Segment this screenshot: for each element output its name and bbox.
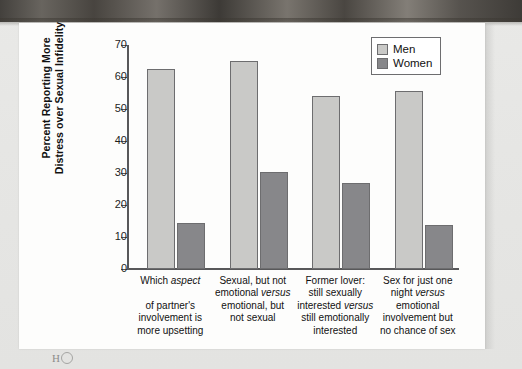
y-tick-label-wrap: 0: [85, 269, 127, 270]
y-axis-title-line1: Percent Reporting More: [40, 37, 52, 158]
bar-men-group2: [230, 61, 258, 269]
bar-women-group3: [342, 183, 370, 269]
bar-women-group1: [177, 223, 205, 269]
bar-chart: 706050403020100 Percent Reporting More D…: [19, 23, 485, 349]
bar-men-group4: [395, 91, 423, 269]
legend-swatch-women: [377, 58, 388, 69]
y-tick-label: 20: [99, 199, 127, 210]
legend-label-men: Men: [393, 43, 415, 55]
y-tick-label: 60: [99, 71, 127, 82]
y-tick-label-wrap: 70: [85, 45, 127, 46]
legend-swatch-men: [377, 44, 388, 55]
figure-panel: 706050403020100 Percent Reporting More D…: [19, 23, 485, 349]
artifact-letter: H: [52, 352, 60, 364]
y-axis-title: Percent Reporting More Distress over Sex…: [40, 10, 66, 186]
bar-men-group1: [147, 69, 175, 269]
y-tick-label-wrap: 10: [85, 237, 127, 238]
bar-women-group4: [425, 225, 453, 269]
y-tick-label: 0: [99, 263, 127, 274]
page-bottom-artifact: H: [52, 352, 73, 364]
chart-legend: MenWomen: [371, 37, 441, 75]
legend-label-women: Women: [393, 57, 432, 69]
y-tick-label: 40: [99, 135, 127, 146]
x-category-label-4: Sex for just onenight versusemotionalinv…: [377, 275, 460, 337]
screenshot-root: 706050403020100 Percent Reporting More D…: [0, 0, 522, 369]
y-tick-label: 30: [99, 167, 127, 178]
legend-item-women: Women: [377, 56, 432, 70]
y-tick-label: 50: [99, 103, 127, 114]
bar-men-group3: [312, 96, 340, 269]
x-category-label-3: Former lover:still sexuallyinterested ve…: [294, 275, 377, 337]
legend-item-men: Men: [377, 42, 432, 56]
y-axis-title-line2: Distress over Sexual Infidelity: [53, 22, 65, 175]
panel-shadow: [485, 23, 495, 349]
y-tick-label: 70: [99, 39, 127, 50]
y-tick-label-wrap: 40: [85, 141, 127, 142]
x-axis-category-labels: Which aspectof partner'sinvolvement ismo…: [129, 275, 461, 347]
artifact-circle-icon: [61, 352, 73, 364]
x-category-label-2: Sexual, but notemotional versusemotional…: [212, 275, 295, 325]
y-tick-label-wrap: 60: [85, 77, 127, 78]
bars-layer: [129, 45, 459, 269]
y-tick-label-wrap: 50: [85, 109, 127, 110]
y-tick-label-wrap: 20: [85, 205, 127, 206]
y-tick-label-wrap: 30: [85, 173, 127, 174]
bar-women-group2: [260, 172, 288, 269]
x-category-label-1: Which aspectof partner'sinvolvement ismo…: [129, 275, 212, 337]
y-tick-label: 10: [99, 231, 127, 242]
